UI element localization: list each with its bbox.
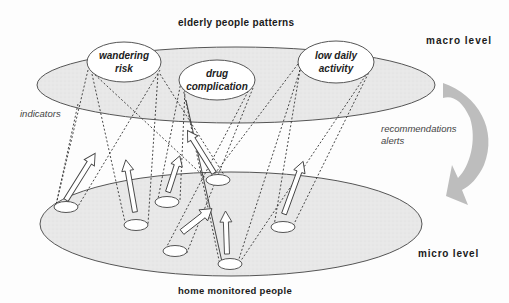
feedback-arrow-icon (443, 83, 489, 205)
person-node[interactable] (54, 202, 78, 213)
pattern-line: risk (88, 62, 160, 75)
pattern-line: complication (179, 80, 255, 93)
diagram-canvas: elderly people patterns macro level micr… (0, 0, 509, 303)
pattern-line: drug (179, 67, 255, 80)
macro-level-label: macro level (426, 35, 492, 46)
pattern-line: wandering (88, 49, 160, 62)
indicators-label: indicators (20, 108, 61, 119)
arrow-icon (182, 127, 219, 176)
pattern-label-drug-complication: drug complication (179, 67, 255, 93)
person-node[interactable] (271, 222, 295, 233)
alerts-label: alerts (381, 135, 404, 146)
pattern-line: activity (300, 62, 372, 75)
pattern-line: low daily (300, 49, 372, 62)
person-node[interactable] (124, 220, 148, 231)
pattern-label-wandering-risk: wandering risk (88, 49, 160, 75)
person-node[interactable] (206, 175, 230, 186)
person-node[interactable] (163, 246, 187, 257)
micro-level-label: micro level (418, 248, 479, 259)
micro-title: home monitored people (178, 285, 292, 296)
person-node[interactable] (155, 197, 179, 208)
recommendations-label: recommendations (381, 123, 457, 134)
macro-title: elderly people patterns (178, 17, 294, 28)
pattern-label-low-daily-activity: low daily activity (300, 49, 372, 75)
person-node[interactable] (218, 259, 242, 270)
